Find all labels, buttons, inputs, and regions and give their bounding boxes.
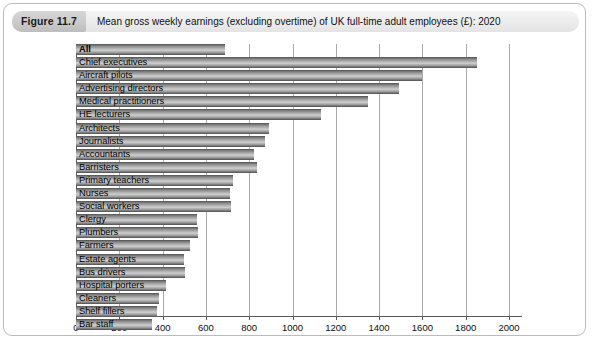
bar-row[interactable]: Farmers [76,240,522,252]
bar[interactable] [76,44,225,55]
category-label: Plumbers [79,226,118,238]
bar-row[interactable]: HE lecturers [76,109,522,121]
bar-row[interactable]: Social workers [76,201,522,213]
bar-row[interactable]: Chief executives [76,57,522,69]
bar-row[interactable]: Plumbers [76,227,522,239]
figure-title: Mean gross weekly earnings (excluding ov… [97,16,501,27]
bar-row[interactable]: All [76,44,522,56]
bar-row[interactable]: Barristers [76,162,522,174]
category-label: Bus drivers [79,266,126,278]
bar-row[interactable]: Cleaners [76,293,522,305]
category-label: Advertising directors [79,82,163,94]
bar-row[interactable]: Accountants [76,149,522,161]
bar-row[interactable]: Nurses [76,188,522,200]
category-label: Cleaners [79,292,116,304]
bar-row[interactable]: Estate agents [76,254,522,266]
figure-caption-bar: Figure 11.7 Mean gross weekly earnings (… [12,11,579,32]
category-label: Bar staff [79,318,113,330]
category-label: Primary teachers [79,174,149,186]
category-label: All [79,43,91,55]
category-label: Aircraft pilots [79,69,133,81]
bar-row[interactable]: Clergy [76,214,522,226]
bar-row[interactable]: Primary teachers [76,175,522,187]
bar-row[interactable]: Advertising directors [76,83,522,95]
figure-frame: Figure 11.7 Mean gross weekly earnings (… [3,3,586,336]
bar-row[interactable]: Medical practitioners [76,96,522,108]
bar-row[interactable]: Bar staff [76,319,522,331]
bar-row[interactable]: Aircraft pilots [76,70,522,82]
chart-plot: 0200400600800100012001400160018002000 Al… [12,37,579,333]
category-label: Chief executives [79,56,147,68]
category-label: Accountants [79,148,130,160]
category-label: Hospital porters [79,279,144,291]
bar-row[interactable]: Architects [76,123,522,135]
bar-rows: AllChief executivesAircraft pilotsAdvert… [76,44,522,316]
bar-row[interactable]: Journalists [76,136,522,148]
category-label: Clergy [79,213,106,225]
category-label: Shelf fillers [79,305,124,317]
bar-row[interactable]: Bus drivers [76,267,522,279]
category-label: Architects [79,122,120,134]
category-label: Medical practitioners [79,95,164,107]
category-label: Journalists [79,135,123,147]
category-label: Estate agents [79,253,136,265]
bar-row[interactable]: Shelf fillers [76,306,522,318]
category-label: Farmers [79,239,114,251]
figure-number-badge: Figure 11.7 [12,11,86,32]
bar-row[interactable]: Hospital porters [76,280,522,292]
category-label: HE lecturers [79,108,130,120]
category-label: Social workers [79,200,139,212]
category-label: Barristers [79,161,119,173]
category-label: Nurses [79,187,108,199]
